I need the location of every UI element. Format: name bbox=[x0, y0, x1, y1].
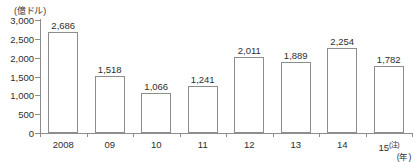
y-tick-label: 3,000 bbox=[10, 15, 34, 26]
y-tick-label: 0 bbox=[29, 128, 34, 139]
x-category-note-marker: (注) bbox=[389, 141, 399, 148]
x-tick-mark bbox=[412, 133, 413, 137]
x-tick-mark bbox=[226, 133, 227, 137]
y-tick-mark bbox=[35, 20, 40, 21]
bar bbox=[234, 57, 264, 133]
bar bbox=[48, 32, 78, 133]
bar-value-label: 1,241 bbox=[191, 74, 215, 85]
x-category-label: 13 bbox=[290, 139, 301, 150]
x-tick-mark bbox=[319, 133, 320, 137]
x-tick-mark bbox=[366, 133, 367, 137]
x-category-label: 09 bbox=[104, 139, 115, 150]
x-tick-mark bbox=[40, 133, 41, 137]
x-tick-mark bbox=[273, 133, 274, 137]
x-category-label: 14 bbox=[337, 139, 348, 150]
bar-value-label: 2,686 bbox=[51, 20, 75, 31]
bar bbox=[281, 62, 311, 133]
y-tick-label: 2,500 bbox=[10, 33, 34, 44]
x-tick-mark bbox=[133, 133, 134, 137]
x-tick-mark bbox=[87, 133, 88, 137]
bar-value-label: 2,254 bbox=[330, 36, 354, 47]
bar bbox=[188, 86, 218, 133]
y-tick-mark bbox=[35, 95, 40, 96]
x-category-label: 2008 bbox=[53, 139, 74, 150]
x-category-label: 11 bbox=[198, 139, 208, 150]
y-tick-mark bbox=[35, 58, 40, 59]
bar bbox=[141, 93, 171, 133]
y-axis-line bbox=[40, 19, 41, 134]
bar bbox=[95, 76, 125, 133]
bar-value-label: 1,066 bbox=[144, 81, 168, 92]
x-category-label: 12 bbox=[244, 139, 255, 150]
y-tick-mark bbox=[35, 77, 40, 78]
bar-value-label: 1,782 bbox=[377, 54, 401, 65]
bar-value-label: 1,889 bbox=[284, 50, 308, 61]
y-tick-mark bbox=[35, 39, 40, 40]
x-tick-mark bbox=[180, 133, 181, 137]
bar-value-label: 1,518 bbox=[98, 64, 122, 75]
x-category-label: 10 bbox=[151, 139, 162, 150]
y-tick-label: 2,000 bbox=[10, 52, 34, 63]
bar-value-label: 2,011 bbox=[238, 45, 261, 56]
y-tick-label: 1,500 bbox=[10, 71, 34, 82]
y-tick-mark bbox=[35, 114, 40, 115]
bar bbox=[374, 66, 404, 133]
y-tick-label: 1,000 bbox=[10, 90, 34, 101]
y-tick-label: 500 bbox=[18, 109, 34, 120]
bar bbox=[327, 48, 357, 133]
x-axis-unit-label: (年) bbox=[397, 150, 412, 162]
bar-chart: (億ドル) 3,0002,5002,0001,5001,0005000 2,68… bbox=[0, 0, 416, 162]
